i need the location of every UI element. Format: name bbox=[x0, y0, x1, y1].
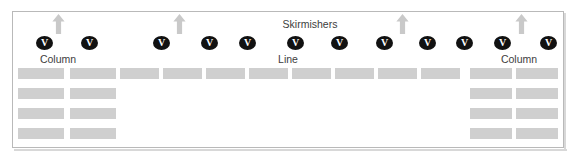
formation-block bbox=[516, 108, 558, 119]
unit-marker-glyph: V bbox=[206, 38, 213, 48]
unit-marker-infantry: V bbox=[376, 36, 393, 50]
unit-marker-infantry: V bbox=[239, 36, 256, 50]
unit-marker-infantry: V bbox=[494, 36, 511, 50]
arrow-up-icon bbox=[52, 14, 65, 34]
formation-block bbox=[70, 128, 116, 139]
formation-block bbox=[70, 68, 116, 79]
formation-diagram: VVVVVVVVVVVV SkirmishersColumnLineColumn bbox=[0, 0, 578, 165]
unit-marker-infantry: V bbox=[81, 36, 98, 50]
formation-block bbox=[335, 68, 374, 79]
formation-block bbox=[470, 128, 512, 139]
unit-marker-glyph: V bbox=[336, 38, 343, 48]
formation-label-column-right: Column bbox=[501, 54, 537, 65]
unit-marker-glyph: V bbox=[292, 38, 299, 48]
arrow-up-icon bbox=[173, 14, 186, 34]
unit-marker-infantry: V bbox=[201, 36, 218, 50]
formation-block bbox=[163, 68, 202, 79]
unit-marker-glyph: V bbox=[381, 38, 388, 48]
arrow-up-icon bbox=[515, 14, 528, 34]
unit-marker-glyph: V bbox=[244, 38, 251, 48]
unit-marker-glyph: V bbox=[86, 38, 93, 48]
unit-marker-infantry: V bbox=[36, 36, 53, 50]
formation-label-column-left: Column bbox=[40, 54, 76, 65]
formation-block bbox=[470, 108, 512, 119]
formation-block bbox=[292, 68, 331, 79]
unit-marker-glyph: V bbox=[41, 38, 48, 48]
formation-block bbox=[516, 128, 558, 139]
formation-block bbox=[516, 88, 558, 99]
formation-block bbox=[18, 108, 64, 119]
formation-label-skirmishers: Skirmishers bbox=[283, 19, 338, 30]
unit-marker-glyph: V bbox=[499, 38, 506, 48]
formation-block bbox=[18, 88, 64, 99]
formation-block bbox=[421, 68, 460, 79]
unit-marker-glyph: V bbox=[424, 38, 431, 48]
unit-marker-infantry: V bbox=[331, 36, 348, 50]
formation-label-line-center: Line bbox=[278, 54, 298, 65]
formation-block bbox=[470, 88, 512, 99]
unit-marker-glyph: V bbox=[545, 38, 552, 48]
unit-marker-infantry: V bbox=[287, 36, 304, 50]
unit-marker-infantry: V bbox=[153, 36, 170, 50]
unit-marker-infantry: V bbox=[456, 36, 473, 50]
formation-block bbox=[18, 68, 64, 79]
formation-block bbox=[516, 68, 558, 79]
unit-marker-glyph: V bbox=[461, 38, 468, 48]
formation-block bbox=[378, 68, 417, 79]
unit-marker-glyph: V bbox=[158, 38, 165, 48]
formation-block bbox=[18, 128, 64, 139]
diagram-frame-shadow-right bbox=[564, 13, 566, 151]
formation-block bbox=[120, 68, 159, 79]
formation-block bbox=[249, 68, 288, 79]
unit-marker-infantry: V bbox=[419, 36, 436, 50]
formation-block bbox=[70, 108, 116, 119]
formation-block bbox=[206, 68, 245, 79]
diagram-frame-shadow-bottom bbox=[14, 149, 567, 151]
formation-block bbox=[470, 68, 512, 79]
arrow-up-icon bbox=[396, 14, 409, 34]
formation-block bbox=[70, 88, 116, 99]
unit-marker-infantry: V bbox=[540, 36, 557, 50]
